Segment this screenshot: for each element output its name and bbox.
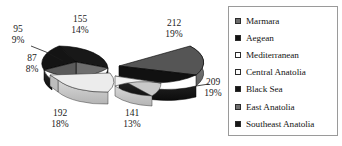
legend-item-mediterranean[interactable]: Mediterranean — [235, 46, 333, 63]
legend-swatch-marmara — [235, 18, 241, 24]
data-label-aegean-percent: 19% — [197, 88, 229, 99]
data-label-east-value: 95 — [4, 24, 32, 35]
legend-item-southeast-anatolia[interactable]: Southeast Anatolia — [235, 115, 333, 132]
legend-label-black-sea: Black Sea — [246, 84, 283, 94]
legend-swatch-southeast-anatolia — [235, 121, 241, 127]
data-label-aegean: 209 19% — [197, 77, 229, 98]
legend-item-black-sea[interactable]: Black Sea — [235, 81, 333, 98]
legend-item-aegean[interactable]: Aegean — [235, 29, 333, 46]
data-label-east: 95 9% — [4, 24, 32, 45]
legend-swatch-black-sea — [235, 86, 241, 92]
legend-item-east-anatolia[interactable]: East Anatolia — [235, 98, 333, 115]
data-label-southeast-value: 155 — [62, 14, 98, 25]
data-label-marmara-value: 212 — [158, 18, 190, 29]
data-label-east-percent: 9% — [4, 35, 32, 46]
data-label-blacksea: 87 8% — [18, 53, 46, 74]
legend-item-marmara[interactable]: Marmara — [235, 12, 333, 29]
data-label-mediterranean-percent: 13% — [116, 119, 148, 130]
legend-label-mediterranean: Mediterranean — [246, 50, 299, 60]
data-label-marmara: 212 19% — [158, 18, 190, 39]
legend-label-marmara: Marmara — [246, 16, 279, 26]
chart-legend: Marmara Aegean Mediterranean Central Ana… — [228, 6, 338, 136]
legend-item-central-anatolia[interactable]: Central Anatolia — [235, 64, 333, 81]
legend-swatch-mediterranean — [235, 52, 241, 58]
data-label-blacksea-percent: 8% — [18, 64, 46, 75]
data-label-mediterranean-value: 141 — [116, 108, 148, 119]
legend-swatch-aegean — [235, 35, 241, 41]
data-label-southeast-percent: 14% — [62, 25, 98, 36]
data-label-central-percent: 18% — [44, 119, 76, 130]
data-label-aegean-value: 209 — [197, 77, 229, 88]
data-label-blacksea-value: 87 — [18, 53, 46, 64]
data-label-southeast: 155 14% — [62, 14, 98, 35]
legend-swatch-east-anatolia — [235, 104, 241, 110]
legend-label-central-anatolia: Central Anatolia — [246, 67, 306, 77]
data-label-mediterranean: 141 13% — [116, 108, 148, 129]
data-label-central-value: 192 — [44, 108, 76, 119]
legend-label-southeast-anatolia: Southeast Anatolia — [246, 119, 314, 129]
legend-label-aegean: Aegean — [246, 33, 274, 43]
data-label-central: 192 18% — [44, 108, 76, 129]
legend-label-east-anatolia: East Anatolia — [246, 102, 295, 112]
legend-swatch-central-anatolia — [235, 69, 241, 75]
data-label-marmara-percent: 19% — [158, 29, 190, 40]
